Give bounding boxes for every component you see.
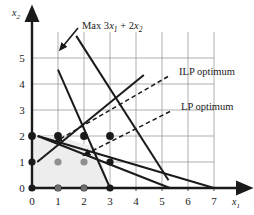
axis-y-tick-label: 1 xyxy=(19,156,25,168)
lattice-point xyxy=(81,185,87,191)
lattice-point xyxy=(28,132,36,140)
lattice-point xyxy=(55,185,61,191)
axis-y-tick-label: 3 xyxy=(19,104,25,116)
axis-x-tick-label: 7 xyxy=(211,195,217,207)
objective-annotation-label: Max 3x1 + 2x2 xyxy=(82,20,143,34)
lattice-point xyxy=(80,132,88,140)
axis-x-tick-label: 6 xyxy=(185,195,191,207)
axis-y-tick-labels: 0 1 2 3 4 5 xyxy=(19,52,25,194)
axis-x-tick-label: 5 xyxy=(159,195,165,207)
lattice-point xyxy=(28,184,35,191)
lattice-point xyxy=(80,158,87,165)
ilp-optimum-label: ILP optimum xyxy=(179,66,235,77)
axis-y-tick-label: 4 xyxy=(19,78,25,90)
axis-x-tick-label: 1 xyxy=(55,195,61,207)
axis-x-tick-label: 4 xyxy=(133,195,139,207)
axis-y-tick-label: 5 xyxy=(19,52,25,64)
ilp-optimum-arrow xyxy=(61,77,168,139)
lattice-point xyxy=(106,158,113,165)
lattice-point xyxy=(54,158,61,165)
axis-x-tick-label: 2 xyxy=(81,195,87,207)
axis-y-tick-label: 0 xyxy=(19,182,25,194)
axis-x-tick-labels: 0 1 2 3 4 5 6 7 xyxy=(29,195,217,207)
axis-x-tick-label: 0 xyxy=(29,195,35,207)
lp-optimum-label: LP optimum xyxy=(181,101,233,112)
lattice-point xyxy=(106,132,114,140)
ilp-lp-graph-figure: 0 1 2 3 4 5 6 7 0 1 2 3 4 5 x1 x2 Max 3x… xyxy=(0,0,254,215)
lattice-point xyxy=(28,158,35,165)
axis-x-tick-label: 3 xyxy=(107,195,113,207)
axis-x-name: x1 xyxy=(231,196,240,210)
lattice-point xyxy=(54,132,62,140)
lattice-point xyxy=(106,184,113,191)
graph-canvas: 0 1 2 3 4 5 6 7 0 1 2 3 4 5 x1 x2 Max 3x… xyxy=(0,0,254,215)
axis-y-name: x2 xyxy=(11,7,20,21)
axis-y-tick-label: 2 xyxy=(19,130,25,142)
